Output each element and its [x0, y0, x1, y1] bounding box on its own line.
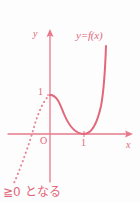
- curve-equation-label: y=f(x): [76, 30, 102, 41]
- y-axis: [47, 29, 54, 182]
- origin-label: O: [40, 136, 47, 146]
- y-axis-label: y: [33, 29, 37, 39]
- x-tick-label-1: 1: [81, 138, 86, 148]
- x-axis-label: x: [126, 140, 130, 150]
- caption-text: ≧0 となる: [3, 186, 61, 198]
- x-axis: [8, 131, 133, 138]
- graph-canvas: [0, 0, 140, 203]
- curve-solid-branch: [50, 46, 106, 134]
- y-tick-label-1: 1: [38, 87, 43, 97]
- figure-container: y x O 1 1 y=f(x) ≧0 となる: [0, 0, 140, 203]
